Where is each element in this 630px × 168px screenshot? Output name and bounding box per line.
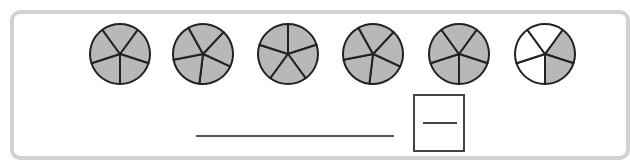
fraction-circle-6: [515, 24, 575, 84]
fraction-bar: [423, 122, 457, 124]
fraction-circle-1: [90, 24, 150, 84]
fraction-circle-4: [343, 24, 403, 84]
fraction-circle-2: [173, 24, 233, 84]
fraction-circle-3: [258, 24, 318, 84]
whole-number-answer-line[interactable]: [196, 135, 394, 137]
fraction-answer-box[interactable]: [413, 94, 465, 152]
denominator-field[interactable]: [415, 128, 463, 148]
numerator-field[interactable]: [415, 98, 463, 118]
fraction-circle-5: [429, 24, 489, 84]
